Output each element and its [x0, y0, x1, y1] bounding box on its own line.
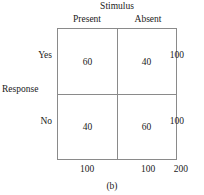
column-header-present: Present: [73, 15, 101, 25]
figure-caption: (b): [106, 182, 117, 192]
row-total-no: 100: [170, 117, 184, 127]
row-group-title: Response: [2, 85, 38, 95]
row-total-yes: 100: [170, 51, 184, 61]
contingency-table-box: 60 40 40 60: [57, 28, 177, 160]
cell-yes-present: 60: [58, 29, 117, 94]
column-header-absent: Absent: [135, 15, 162, 25]
column-total-absent: 100: [141, 165, 155, 175]
signal-detection-matrix-figure: Stimulus Present Absent Response Yes No …: [0, 0, 204, 195]
column-group-title: Stimulus: [100, 2, 134, 12]
cell-yes-absent: 40: [117, 29, 176, 94]
row-header-no: No: [40, 117, 52, 127]
grand-total: 200: [174, 165, 188, 175]
cell-no-present: 40: [58, 94, 117, 159]
row-header-yes: Yes: [38, 51, 52, 61]
cell-no-absent: 60: [117, 94, 176, 159]
column-total-present: 100: [80, 165, 94, 175]
